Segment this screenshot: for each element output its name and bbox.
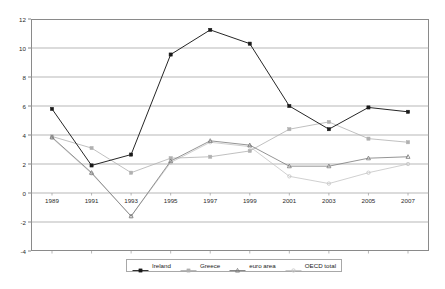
legend-label: Ireland: [152, 262, 171, 269]
legend-label: Greece: [200, 262, 220, 269]
x-tick-label: 1991: [72, 197, 112, 204]
legend-label: OECD total: [305, 262, 336, 269]
y-tick-label: 0: [2, 190, 26, 197]
x-tick-label: 1993: [111, 197, 151, 204]
line-chart: 121086420-2-4 19891991199319951997199920…: [0, 0, 445, 289]
x-tick-label: 1995: [151, 197, 191, 204]
y-tick-label: 4: [2, 132, 26, 139]
x-tick-label: 2003: [309, 197, 349, 204]
plot-area: [31, 19, 429, 251]
legend-marker-icon: [180, 261, 197, 270]
y-tick-label: 2: [2, 161, 26, 168]
y-tick-label: -2: [2, 219, 26, 226]
y-tick-label: 10: [2, 45, 26, 52]
x-tick-label: 1989: [32, 197, 72, 204]
y-tick-label: 6: [2, 103, 26, 110]
y-tick-label: 8: [2, 74, 26, 81]
x-tick-label: 2005: [348, 197, 388, 204]
legend-label: euro area: [249, 262, 276, 269]
x-tick-label: 1997: [190, 197, 230, 204]
legend-marker-icon: [132, 261, 149, 270]
y-tick-label: -4: [2, 248, 26, 255]
legend-item-greece[interactable]: Greece: [180, 261, 220, 270]
legend-item-euro-area[interactable]: euro area: [229, 261, 276, 270]
legend-marker-icon: [285, 261, 302, 270]
legend-item-oecd-total[interactable]: OECD total: [285, 261, 336, 270]
chart-legend: IrelandGreeceeuro areaOECD total: [126, 259, 342, 272]
legend-item-ireland[interactable]: Ireland: [132, 261, 171, 270]
y-tick-label: 12: [2, 16, 26, 23]
x-tick-label: 2007: [388, 197, 428, 204]
x-tick-label: 1999: [230, 197, 270, 204]
legend-marker-icon: [229, 261, 246, 270]
x-tick-label: 2001: [269, 197, 309, 204]
